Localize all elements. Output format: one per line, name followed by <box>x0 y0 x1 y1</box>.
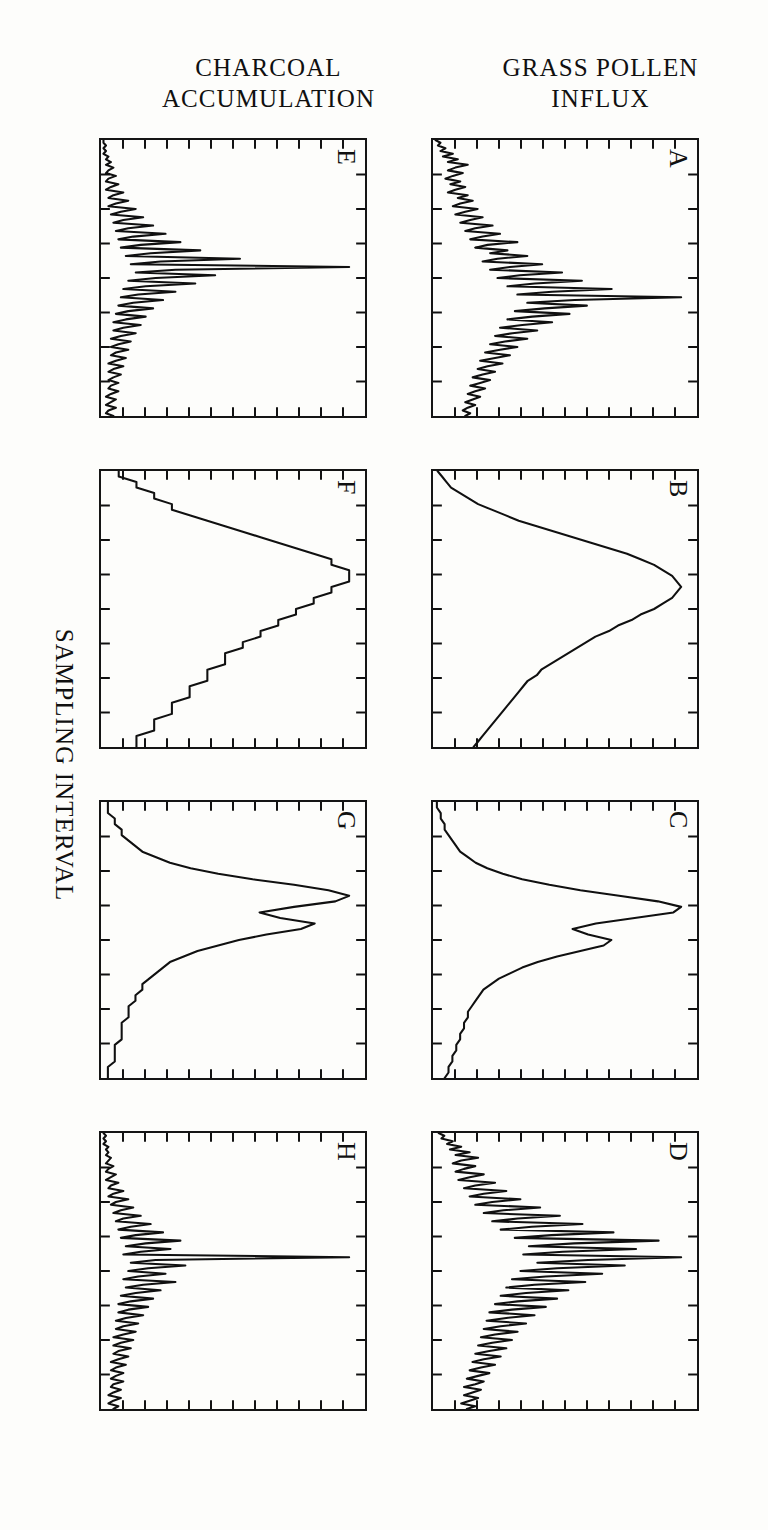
figure: GRASS POLLEN INFLUX CHARCOAL ACCUMULATIO… <box>29 60 739 1470</box>
panel-g-ticks <box>101 802 365 1078</box>
panel-a-ticks <box>433 140 697 416</box>
panel-g-label: G <box>333 811 359 830</box>
panel-e-series <box>103 140 349 416</box>
panel-b-plot <box>433 471 697 747</box>
panel-b-ticks <box>433 471 697 747</box>
panel-a-series <box>435 140 681 416</box>
figure-rotator: GRASS POLLEN INFLUX CHARCOAL ACCUMULATIO… <box>29 60 739 1470</box>
panel-g: G <box>99 800 367 1080</box>
panel-f: F <box>99 469 367 749</box>
panel-g-series <box>108 802 349 1078</box>
panel-c: C <box>431 800 699 1080</box>
panel-c-plot <box>433 802 697 1078</box>
panel-f-ticks <box>101 471 365 747</box>
panel-f-plot <box>101 471 365 747</box>
panel-b-label: B <box>665 480 691 498</box>
panel-e-label: E <box>333 149 359 165</box>
panel-d-series <box>439 1133 682 1409</box>
panel-a-plot <box>433 140 697 416</box>
panel-b: B <box>431 469 699 749</box>
panel-d-label: D <box>665 1142 691 1161</box>
panel-h-label: H <box>333 1142 359 1161</box>
panel-f-series <box>119 471 349 747</box>
panel-e: E <box>99 138 367 418</box>
panel-d: D <box>431 1131 699 1411</box>
y-axis-title-charcoal-accumulation: CHARCOAL ACCUMULATION <box>154 53 384 114</box>
panel-a-label: A <box>665 149 691 168</box>
panel-c-series <box>437 802 681 1078</box>
panel-h: H <box>99 1131 367 1411</box>
panel-grid: A B C D E F <box>99 138 699 1420</box>
panel-b-series <box>438 471 682 747</box>
panel-e-plot <box>101 140 365 416</box>
panel-f-label: F <box>333 480 359 495</box>
y-axis-title-grass-pollen-influx: GRASS POLLEN INFLUX <box>486 53 716 114</box>
panel-c-ticks <box>433 802 697 1078</box>
panel-h-series <box>103 1133 349 1409</box>
panel-d-ticks <box>433 1133 697 1409</box>
x-axis-title-sampling-interval: SAMPLING INTERVAL <box>49 60 80 1470</box>
panel-c-label: C <box>665 811 691 829</box>
panel-e-ticks <box>101 140 365 416</box>
panel-h-plot <box>101 1133 365 1409</box>
panel-d-plot <box>433 1133 697 1409</box>
panel-a: A <box>431 138 699 418</box>
panel-g-plot <box>101 802 365 1078</box>
